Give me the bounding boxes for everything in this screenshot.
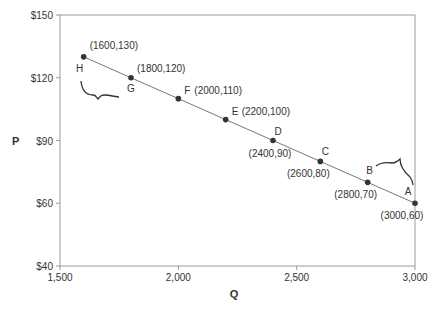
demand-chart: $150$120$90$60$40 1,5002,0002,5003,000 P… xyxy=(0,0,438,309)
point-label: G xyxy=(127,83,135,94)
point-annotation: (2400,90) xyxy=(249,148,292,159)
y-tick-label: $90 xyxy=(36,136,53,147)
x-ticks: 1,5002,0002,5003,000 xyxy=(47,266,427,283)
y-ticks: $150$120$90$60$40 xyxy=(31,10,60,272)
data-point-a xyxy=(412,200,418,206)
y-axis-label: P xyxy=(12,135,19,147)
point-label: B xyxy=(366,165,373,176)
point-annotation: (2800,70) xyxy=(334,189,377,200)
point-label: D xyxy=(274,126,281,137)
data-point-b xyxy=(365,180,371,186)
point-annotation: (2600,80) xyxy=(287,168,330,179)
y-tick-label: $40 xyxy=(36,261,53,272)
point-label: C xyxy=(322,146,329,157)
point-label: E xyxy=(232,106,239,117)
x-tick-label: 1,500 xyxy=(47,272,72,283)
point-label: A xyxy=(405,186,412,197)
x-tick-label: 2,500 xyxy=(284,272,309,283)
point-annotation: (1600,130) xyxy=(90,40,138,51)
point-annotation: (3000,60) xyxy=(381,210,424,221)
point-annotation: (2200,100) xyxy=(242,106,290,117)
data-point-g xyxy=(128,75,134,81)
point-label: H xyxy=(76,63,83,74)
brace-h-g xyxy=(81,81,119,99)
y-tick-label: $120 xyxy=(31,73,54,84)
data-point-h xyxy=(81,54,87,60)
brace-b-a xyxy=(376,159,413,185)
x-axis-label: Q xyxy=(230,288,239,300)
data-point-f xyxy=(176,96,182,102)
data-point-c xyxy=(318,159,324,165)
y-tick-label: $60 xyxy=(36,198,53,209)
point-label: F xyxy=(184,85,190,96)
point-annotation: (2000,110) xyxy=(194,85,242,96)
data-point-d xyxy=(270,138,276,144)
demand-line: H(1600,130)G(1800,120)F(2000,110)E(2200,… xyxy=(76,40,423,221)
x-tick-label: 3,000 xyxy=(402,272,427,283)
x-tick-label: 2,000 xyxy=(166,272,191,283)
y-tick-label: $150 xyxy=(31,10,54,21)
data-point-e xyxy=(223,117,229,123)
point-annotation: (1800,120) xyxy=(137,63,185,74)
